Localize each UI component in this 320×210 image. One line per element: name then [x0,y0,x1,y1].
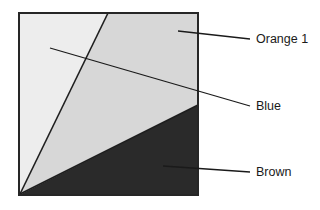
callout-label-brown: Brown [256,165,291,179]
callout-label-blue: Blue [256,99,281,113]
diagram-canvas: Orange 1 Blue Brown [0,0,320,210]
callout-label-orange-1: Orange 1 [256,32,308,46]
diagram-root: Orange 1 Blue Brown [0,0,320,210]
